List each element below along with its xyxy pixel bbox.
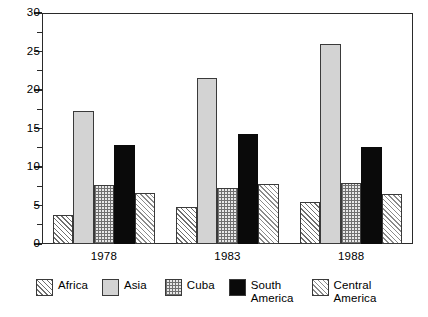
bar bbox=[320, 44, 341, 244]
bar bbox=[94, 185, 115, 244]
bars-layer bbox=[0, 0, 428, 317]
legend-item-label: Cuba bbox=[187, 278, 215, 292]
bar bbox=[361, 147, 382, 244]
legend-swatch-icon bbox=[36, 279, 53, 296]
bar bbox=[197, 78, 218, 244]
legend-item: Cuba bbox=[165, 278, 215, 296]
bar bbox=[341, 183, 362, 244]
legend-swatch-icon bbox=[312, 279, 329, 296]
bar bbox=[73, 111, 94, 244]
x-axis-label: 1978 bbox=[74, 250, 134, 262]
x-axis-label: 1983 bbox=[198, 250, 258, 262]
legend-item-label: Asia bbox=[124, 278, 147, 292]
bar bbox=[114, 145, 135, 244]
legend-swatch-icon bbox=[229, 279, 246, 296]
legend-item-label: South America bbox=[251, 278, 294, 304]
chart-legend: AfricaAsiaCubaSouth AmericaCentral Ameri… bbox=[36, 278, 404, 310]
bar bbox=[53, 215, 74, 244]
legend-item: Africa bbox=[36, 278, 88, 296]
legend-item-label: Central America bbox=[334, 278, 377, 304]
bar bbox=[382, 194, 403, 244]
legend-item: Central America bbox=[312, 278, 377, 304]
legend-item-label: Africa bbox=[58, 278, 88, 292]
legend-swatch-icon bbox=[102, 279, 119, 296]
bar bbox=[258, 184, 279, 244]
x-axis-label: 1988 bbox=[321, 250, 381, 262]
legend-swatch-icon bbox=[165, 279, 182, 296]
legend-item: Asia bbox=[102, 278, 147, 296]
legend-item: South America bbox=[229, 278, 294, 304]
bar-chart: 051015202530 197819831988 AfricaAsiaCuba… bbox=[0, 0, 428, 317]
bar bbox=[176, 207, 197, 244]
bar bbox=[238, 134, 259, 244]
bar bbox=[300, 202, 321, 244]
bar bbox=[217, 188, 238, 244]
bar bbox=[135, 193, 156, 244]
